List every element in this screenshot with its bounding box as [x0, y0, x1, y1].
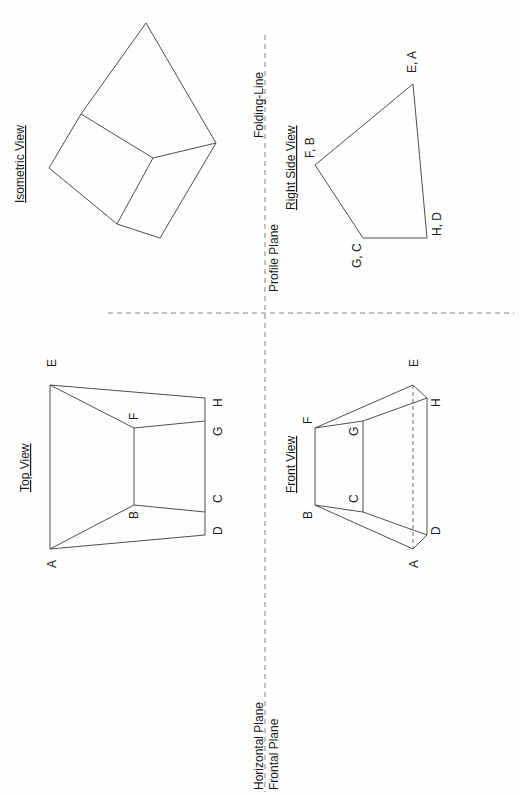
- edge-a-d: [413, 535, 427, 549]
- edge-b-a: [315, 505, 413, 549]
- top-label-e: E: [45, 359, 59, 367]
- edge-f-g: [134, 421, 205, 428]
- projection-diagram: Horizontal Plane Frontal Plane Profile P…: [0, 0, 520, 795]
- folding-line-label: Folding-Line: [252, 72, 266, 138]
- right-side-outline: [315, 84, 427, 238]
- front-label-d: D: [429, 526, 443, 535]
- edge-f-e: [315, 385, 413, 428]
- top-view-outline: [50, 385, 205, 549]
- isometric-edge: [81, 114, 153, 158]
- profile-plane-label: Profile Plane: [267, 224, 281, 292]
- edge-e-f: [50, 385, 134, 428]
- front-label-f: F: [301, 417, 315, 424]
- label-h-d: H, D: [430, 212, 444, 236]
- edge-e-h: [413, 385, 427, 398]
- drawing-surface: Horizontal Plane Frontal Plane Profile P…: [0, 0, 520, 795]
- front-label-a: A: [407, 560, 421, 568]
- front-label-g: G: [347, 427, 361, 436]
- horizontal-plane-label: Horizontal Plane: [252, 702, 266, 790]
- isometric-outline: [49, 23, 216, 238]
- front-view-title: Front View: [284, 436, 298, 493]
- frontal-plane-label: Frontal Plane: [267, 718, 281, 790]
- top-label-b: B: [127, 511, 141, 519]
- edge-g-h: [363, 398, 427, 421]
- top-view-title: Top View: [18, 443, 32, 492]
- label-f-b: F, B: [303, 137, 317, 158]
- edge-c-d: [363, 512, 427, 535]
- right-side-view-title: Right Side View: [284, 125, 298, 210]
- top-label-d: D: [211, 526, 225, 535]
- front-label-b: B: [301, 511, 315, 519]
- top-label-h: H: [211, 398, 225, 407]
- isometric-view: Isometric View: [13, 23, 216, 238]
- front-view: Front View E F H G B C D A: [284, 359, 443, 568]
- isometric-edge: [153, 143, 216, 158]
- front-label-e: E: [407, 359, 421, 367]
- label-g-c: G, C: [350, 243, 364, 268]
- front-label-c: C: [347, 494, 361, 503]
- edge-b-c: [134, 505, 205, 512]
- isometric-edge: [117, 158, 153, 224]
- top-view: Top View E F H G B C D A: [18, 359, 225, 568]
- top-label-c: C: [211, 494, 225, 503]
- top-label-f: F: [127, 413, 141, 420]
- right-side-view: Right Side View F, B E, A G, C H, D: [284, 51, 444, 268]
- label-e-a: E, A: [405, 51, 419, 73]
- top-label-a: A: [45, 560, 59, 568]
- top-label-g: G: [211, 427, 225, 436]
- front-label-h: H: [429, 398, 443, 407]
- isometric-view-title: Isometric View: [13, 125, 27, 203]
